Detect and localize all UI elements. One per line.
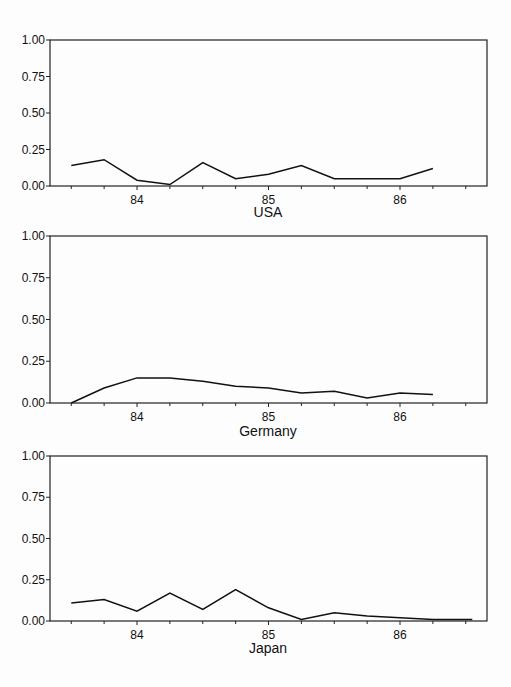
chart-japan: 0.000.250.500.751.00848586Japan	[0, 0, 511, 687]
y-tick-label: 0.50	[22, 532, 46, 546]
x-tick-label: 84	[130, 628, 144, 642]
x-tick-label: 86	[393, 628, 407, 642]
chart-panel-japan: 0.000.250.500.751.00848586Japan	[0, 0, 511, 687]
y-tick-label: 1.00	[22, 449, 46, 463]
y-tick-label: 0.75	[22, 490, 46, 504]
series-line	[71, 590, 472, 620]
chart-title: Japan	[249, 640, 287, 656]
y-tick-label: 0.00	[22, 614, 46, 628]
plot-frame	[50, 456, 487, 621]
y-tick-label: 0.25	[22, 573, 46, 587]
